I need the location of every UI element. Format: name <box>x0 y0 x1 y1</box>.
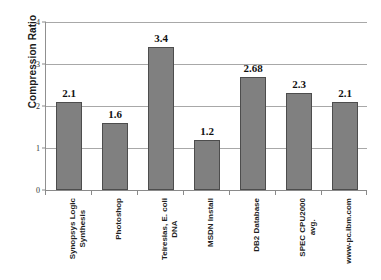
x-axis-label-line2: avg. <box>308 198 318 257</box>
bar-slot: 2.3 <box>276 22 322 190</box>
x-tick-mark <box>91 190 92 195</box>
y-tick-label-1: 1 <box>36 144 40 153</box>
bar-value-label: 1.2 <box>200 125 214 137</box>
bar-slot: 2.1 <box>322 22 368 190</box>
x-axis-category-labels: Synopsys LogicSynthesisPhotoshopTeiresia… <box>45 196 367 280</box>
x-axis-label: Teiresias, E. coliDNA <box>160 198 179 260</box>
x-axis-label-line1: Teiresias, E. coli <box>160 198 169 260</box>
x-axis-label-line2: DNA <box>170 198 180 260</box>
x-tick-mark <box>183 190 184 195</box>
bar[interactable] <box>286 93 312 190</box>
bar-value-label: 2.1 <box>62 87 76 99</box>
bar-slot: 1.6 <box>92 22 138 190</box>
y-tick-label-2: 2 <box>36 102 40 111</box>
x-axis-label-line1: www-pc.ibm.com <box>344 198 353 264</box>
x-tick-mark <box>366 190 367 195</box>
x-label-slot: www-pc.ibm.com <box>321 196 367 280</box>
x-axis-label-line1: Synopsys Logic <box>68 198 77 259</box>
x-axis-label-line1: MSDN Install <box>206 198 215 247</box>
x-tick-mark <box>321 190 322 195</box>
x-axis-label-line1: Photoshop <box>114 198 123 240</box>
bar-slot: 2.68 <box>230 22 276 190</box>
bar[interactable] <box>102 123 128 190</box>
bar-slot: 2.1 <box>46 22 92 190</box>
compression-ratio-bar-chart: Compression Ratio 012342.11.63.41.22.682… <box>0 0 381 280</box>
y-tick-label-0: 0 <box>36 186 40 195</box>
bar-value-label: 2.68 <box>243 62 262 74</box>
x-axis-label: DB2 Database <box>252 198 262 252</box>
x-axis-label: www-pc.ibm.com <box>344 198 354 264</box>
x-label-slot: DB2 Database <box>229 196 275 280</box>
x-axis-label: Synopsys LogicSynthesis <box>68 198 87 259</box>
x-label-slot: SPEC CPU2000avg. <box>275 196 321 280</box>
x-tick-mark <box>229 190 230 195</box>
y-tick-label-3: 3 <box>36 60 40 69</box>
bar-value-label: 2.3 <box>292 78 306 90</box>
x-axis-label: Photoshop <box>114 198 124 240</box>
x-axis-label: MSDN Install <box>206 198 216 247</box>
x-tick-mark <box>137 190 138 195</box>
bar-value-label: 1.6 <box>108 108 122 120</box>
x-label-slot: Teiresias, E. coliDNA <box>137 196 183 280</box>
x-axis-label: SPEC CPU2000avg. <box>298 198 317 257</box>
x-label-slot: Photoshop <box>91 196 137 280</box>
plot-area: 012342.11.63.41.22.682.32.1 <box>45 22 367 190</box>
x-label-slot: Synopsys LogicSynthesis <box>45 196 91 280</box>
bar-value-label: 3.4 <box>154 32 168 44</box>
bar[interactable] <box>240 77 266 190</box>
bar[interactable] <box>56 102 82 190</box>
x-axis-label-line1: DB2 Database <box>252 198 261 252</box>
x-tick-mark <box>275 190 276 195</box>
bar-slot: 1.2 <box>184 22 230 190</box>
x-axis-label-line1: SPEC CPU2000 <box>298 198 307 257</box>
y-tick-label-4: 4 <box>36 18 40 27</box>
bar[interactable] <box>332 102 358 190</box>
bar[interactable] <box>148 47 174 190</box>
bar-value-label: 2.1 <box>338 87 352 99</box>
x-axis-label-line2: Synthesis <box>78 198 88 259</box>
x-label-slot: MSDN Install <box>183 196 229 280</box>
bar-slot: 3.4 <box>138 22 184 190</box>
x-tick-mark <box>45 190 46 195</box>
bar[interactable] <box>194 140 220 190</box>
